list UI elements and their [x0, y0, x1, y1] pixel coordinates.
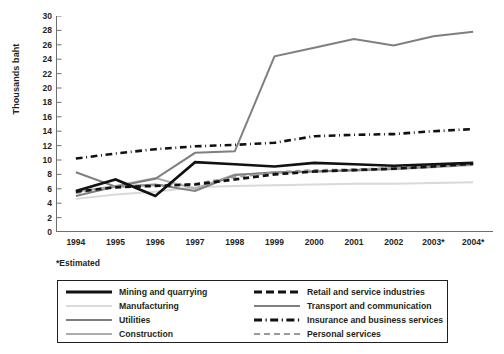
legend-line-swatch-icon	[254, 300, 300, 312]
legend-item[interactable]: Retail and service industries	[254, 285, 444, 299]
footnote-estimated: *Estimated	[56, 258, 100, 268]
legend-item-label: Construction	[119, 329, 173, 339]
legend-line-swatch-icon	[66, 286, 112, 298]
y-tick-label: 4	[28, 199, 52, 207]
x-tick-label: 2003*	[414, 237, 454, 247]
legend-item-label: Utilities	[119, 315, 150, 325]
y-tick-label: 16	[28, 113, 52, 121]
x-tick-label: 2001	[334, 237, 374, 247]
y-tick-label: 6	[28, 185, 52, 193]
x-tick-label: 2002	[374, 237, 414, 247]
y-tick-label: 24	[28, 55, 52, 63]
series-canvas	[56, 16, 493, 232]
legend-item-label: Insurance and business services	[307, 315, 443, 325]
legend-line-swatch-icon	[66, 300, 112, 312]
legend-item-label: Personal services	[307, 329, 381, 339]
y-tick-label: 20	[28, 84, 52, 92]
y-tick-label: 8	[28, 170, 52, 178]
y-tick-label: 18	[28, 98, 52, 106]
legend-item[interactable]: Transport and communication	[254, 299, 444, 313]
x-tick-label: 1997	[175, 237, 215, 247]
legend-line-swatch-icon	[254, 286, 300, 298]
legend-item-label: Manufacturing	[119, 301, 179, 311]
legend-item-label: Retail and service industries	[307, 287, 425, 297]
chart-legend: Mining and quarryingManufacturingUtiliti…	[57, 280, 448, 343]
plot-area	[56, 16, 493, 232]
legend-line-swatch-icon	[66, 314, 112, 326]
y-tick-label: 22	[28, 70, 52, 78]
series-line	[76, 129, 473, 159]
y-tick-label: 26	[28, 41, 52, 49]
legend-item[interactable]: Insurance and business services	[254, 313, 444, 327]
x-tick-label: 1996	[135, 237, 175, 247]
x-tick-label: 2004*	[453, 237, 493, 247]
y-tick-label: 2	[28, 214, 52, 222]
legend-item-label: Transport and communication	[307, 301, 432, 311]
legend-item-label: Mining and quarrying	[119, 287, 207, 297]
axis-lines	[56, 16, 493, 232]
legend-line-swatch-icon	[254, 314, 300, 326]
x-axis-tick-labels: 1994199519961997199819992000200120022003…	[56, 237, 493, 253]
legend-line-swatch-icon	[254, 328, 300, 340]
legend-column-left: Mining and quarryingManufacturingUtiliti…	[66, 285, 251, 341]
y-axis-title: Thousands baht	[11, 19, 21, 139]
y-axis-tick-labels: 302826242220181614121086420	[26, 0, 52, 250]
chart-figure: Thousands baht 3028262422201816141210864…	[0, 0, 504, 354]
y-tick-label: 30	[28, 12, 52, 20]
x-tick-label: 1994	[56, 237, 96, 247]
legend-line-swatch-icon	[66, 328, 112, 340]
x-tick-label: 1999	[255, 237, 295, 247]
x-tick-label: 1998	[215, 237, 255, 247]
y-tick-label: 0	[28, 228, 52, 236]
y-tick-label: 12	[28, 142, 52, 150]
y-tick-label: 10	[28, 156, 52, 164]
legend-item[interactable]: Manufacturing	[66, 299, 251, 313]
y-tick-label: 28	[28, 26, 52, 34]
x-tick-label: 2000	[294, 237, 334, 247]
legend-item[interactable]: Personal services	[254, 327, 444, 341]
y-tick-label: 14	[28, 127, 52, 135]
x-tick-label: 1995	[96, 237, 136, 247]
legend-item[interactable]: Utilities	[66, 313, 251, 327]
legend-item[interactable]: Mining and quarrying	[66, 285, 251, 299]
legend-column-right: Retail and service industriesTransport a…	[254, 285, 444, 341]
legend-item[interactable]: Construction	[66, 327, 251, 341]
